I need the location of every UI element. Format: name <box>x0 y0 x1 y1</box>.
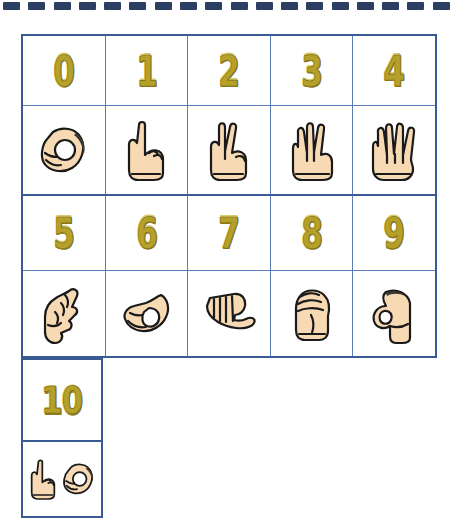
row-hands-5-9 <box>23 271 435 356</box>
asl-hand-7-icon <box>198 288 260 340</box>
binding-dash <box>28 2 45 10</box>
asl-hand-8-icon <box>287 283 337 345</box>
asl-hand-1-icon <box>27 454 59 504</box>
binding-dash <box>3 2 20 10</box>
number-3-label: 3 <box>301 49 322 92</box>
cell-number-3: 3 <box>271 36 354 105</box>
binding-dash <box>407 2 424 10</box>
number-5-label: 5 <box>53 212 74 255</box>
number-8-label: 8 <box>301 212 322 255</box>
binding-dash <box>79 2 96 10</box>
binding-dash <box>256 2 273 10</box>
ten-block: 10 <box>21 358 103 518</box>
number-4-label: 4 <box>384 49 405 92</box>
cell-hand-9 <box>353 271 435 356</box>
cell-number-2: 2 <box>188 36 271 105</box>
cell-number-8: 8 <box>271 196 354 270</box>
cell-hand-8 <box>271 271 354 356</box>
binding-dash <box>306 2 323 10</box>
cell-hand-10 <box>23 442 101 516</box>
number-1-label: 1 <box>136 49 157 92</box>
cell-number-4: 4 <box>353 36 435 105</box>
cell-hand-7 <box>188 271 271 356</box>
binding-dash <box>433 2 450 10</box>
binding-dash <box>382 2 399 10</box>
binding-dash <box>281 2 298 10</box>
asl-hand-9-icon <box>366 282 422 346</box>
binding-dash <box>129 2 146 10</box>
cell-number-10: 10 <box>23 360 101 442</box>
asl-hand-6-icon <box>116 285 176 343</box>
cell-number-7: 7 <box>188 196 271 270</box>
number-7-label: 7 <box>219 212 240 255</box>
cell-number-5: 5 <box>23 196 106 270</box>
cell-hand-2 <box>188 106 271 194</box>
cell-number-9: 9 <box>353 196 435 270</box>
number-2-label: 2 <box>219 49 240 92</box>
cell-hand-5 <box>23 271 106 356</box>
row-hands-0-4 <box>23 106 435 196</box>
binding-dash <box>155 2 172 10</box>
number-10-label: 10 <box>42 381 83 419</box>
number-9-label: 9 <box>384 212 405 255</box>
cell-hand-0 <box>23 106 106 194</box>
binding-dash <box>180 2 197 10</box>
binding-dash <box>104 2 121 10</box>
binding-dash <box>231 2 248 10</box>
binding-dash <box>54 2 71 10</box>
asl-hand-3-icon <box>284 117 340 183</box>
cell-number-1: 1 <box>106 36 189 105</box>
binding-dash <box>332 2 349 10</box>
asl-hand-5-icon <box>39 281 89 347</box>
binding-dash <box>357 2 374 10</box>
number-0-label: 0 <box>53 49 74 92</box>
cell-number-6: 6 <box>106 196 189 270</box>
cell-hand-4 <box>353 106 435 194</box>
cell-hand-6 <box>106 271 189 356</box>
cell-number-0: 0 <box>23 36 106 105</box>
row-numbers-5-9: 5 6 7 8 9 <box>23 196 435 271</box>
spiral-binding <box>0 0 455 14</box>
number-6-label: 6 <box>136 212 157 255</box>
binding-dash <box>205 2 222 10</box>
row-numbers-0-4: 0 1 2 3 4 <box>23 36 435 106</box>
asl-hand-2-icon <box>203 117 255 183</box>
asl-hand-4-icon <box>365 117 423 183</box>
cell-hand-3 <box>271 106 354 194</box>
asl-hand-0-icon <box>36 120 92 180</box>
asl-hand-0-icon <box>60 458 98 500</box>
asl-hand-1-icon <box>122 117 170 183</box>
asl-number-chart-grid: 0 1 2 3 4 <box>21 34 437 358</box>
cell-hand-1 <box>106 106 189 194</box>
